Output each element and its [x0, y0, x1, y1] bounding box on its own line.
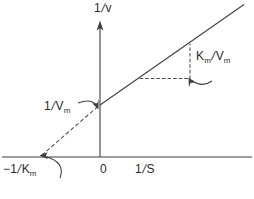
origin-label: 0 — [100, 163, 107, 175]
slope-numerator: K — [196, 49, 204, 63]
y-intercept-label: 1/Vm — [44, 100, 71, 112]
x-axis-label-denominator: S — [146, 162, 154, 176]
x-axis-label: 1/S — [135, 163, 155, 175]
plot-canvas — [0, 0, 254, 199]
x-intercept-label: −1/Km — [3, 163, 37, 175]
lineweaver-burk-figure: 1/v 1/Vm −1/Km 0 1/S Km/Vm — [0, 0, 254, 199]
slope-denominator-subscript: m — [224, 56, 231, 65]
y-intercept-subscript: m — [64, 106, 71, 115]
y-axis-label: 1/v — [94, 2, 112, 14]
y-intercept-denominator: V — [55, 99, 63, 113]
slope-denominator: V — [216, 49, 224, 63]
slope-pointer-arrow — [192, 81, 212, 85]
slope-label: Km/Vm — [196, 50, 231, 62]
x-intercept-pointer-arrow — [45, 157, 61, 179]
x-intercept-subscript: m — [30, 169, 37, 178]
x-intercept-denominator: K — [22, 162, 30, 176]
